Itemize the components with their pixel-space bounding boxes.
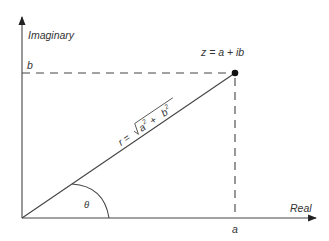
modulus-vector [22, 73, 235, 218]
modulus-label: r = a 2 + b 2 [115, 98, 180, 148]
y-axis-label: Imaginary [28, 29, 75, 41]
x-axis-label: Real [290, 202, 312, 214]
point-label: z = a + ib [200, 46, 244, 58]
complex-point [232, 70, 239, 77]
real-part-label: a [232, 223, 238, 235]
angle-label: θ [84, 199, 90, 210]
modulus-plus: + [147, 114, 158, 126]
complex-plane-diagram: Imaginary Real b a z = a + ib θ r = a 2 … [0, 0, 329, 241]
imag-part-label: b [27, 59, 33, 71]
angle-arc [72, 184, 109, 218]
